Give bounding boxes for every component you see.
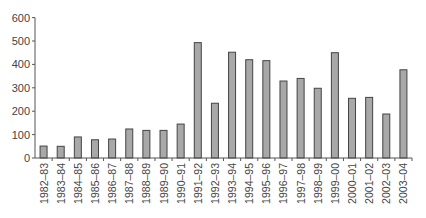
x-tick-label: 2002–03 — [380, 163, 392, 204]
x-tick-label: 1987–88 — [123, 163, 135, 204]
y-tick-label: 200 — [12, 105, 30, 117]
bar-1993–94 — [229, 52, 236, 158]
x-tick-label: 1985–86 — [89, 163, 101, 204]
bar-1988–89 — [143, 130, 150, 158]
x-axis: 1982–831983–841984–851985–861986–871987–… — [35, 158, 412, 204]
y-tick-label: 600 — [12, 12, 30, 24]
x-tick-label: 1994–95 — [243, 163, 255, 204]
bar-1990–91 — [177, 124, 184, 158]
bar-1992–93 — [211, 103, 218, 158]
bar-1999–00 — [331, 53, 338, 158]
bar-1991–92 — [194, 43, 201, 158]
y-tick-label: 0 — [24, 152, 30, 164]
bar-1985–86 — [91, 140, 98, 158]
x-tick-label: 2003–04 — [397, 163, 409, 204]
x-tick-label: 1989–90 — [158, 163, 170, 204]
x-tick-label: 1988–89 — [140, 163, 152, 204]
bar-1986–87 — [109, 139, 116, 158]
bar-1987–88 — [126, 129, 133, 158]
bar-2003–04 — [400, 70, 407, 158]
x-tick-label: 1998–99 — [312, 163, 324, 204]
x-tick-label: 1996–97 — [277, 163, 289, 204]
x-tick-label: 1992–93 — [209, 163, 221, 204]
x-tick-label: 2001–02 — [363, 163, 375, 204]
bar-1982–83 — [40, 146, 47, 158]
x-tick-label: 2000–01 — [346, 163, 358, 204]
x-tick-label: 1991–92 — [192, 163, 204, 204]
bar-1989–90 — [160, 130, 167, 158]
bar-1983–84 — [57, 146, 64, 158]
bars — [40, 43, 407, 158]
x-tick-label: 1997–98 — [295, 163, 307, 204]
y-tick-label: 500 — [12, 35, 30, 47]
bar-chart: 0100200300400500600 1982–831983–841984–8… — [0, 0, 426, 218]
x-tick-label: 1999–00 — [329, 163, 341, 204]
x-tick-label: 1984–85 — [72, 163, 84, 204]
bar-1996–97 — [280, 81, 287, 158]
bar-1997–98 — [297, 78, 304, 158]
x-tick-label: 1986–87 — [106, 163, 118, 204]
x-tick-label: 1983–84 — [55, 163, 67, 204]
bar-1995–96 — [263, 61, 270, 158]
x-tick-label: 1993–94 — [226, 163, 238, 204]
bar-1998–99 — [314, 88, 321, 158]
x-tick-label: 1982–83 — [38, 163, 50, 204]
y-tick-label: 100 — [12, 129, 30, 141]
bar-2000–01 — [349, 98, 356, 158]
y-tick-label: 300 — [12, 82, 30, 94]
y-axis: 0100200300400500600 — [12, 12, 35, 164]
x-tick-label: 1990–91 — [175, 163, 187, 204]
y-tick-label: 400 — [12, 58, 30, 70]
bar-2001–02 — [366, 97, 373, 158]
bar-1984–85 — [74, 137, 81, 158]
bar-2002–03 — [383, 114, 390, 158]
x-tick-label: 1995–96 — [260, 163, 272, 204]
bar-1994–95 — [246, 60, 253, 158]
